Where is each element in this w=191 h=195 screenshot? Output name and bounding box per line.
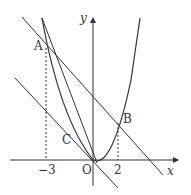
parabola: [42, 18, 140, 161]
x-axis-label: x: [167, 165, 174, 177]
point-a-label: A: [34, 40, 43, 52]
origin-label: O: [82, 164, 92, 176]
point-b-label: B: [123, 113, 132, 125]
tick-neg3: −3: [38, 164, 56, 176]
y-axis-label: y: [80, 12, 87, 24]
point-c-label: C: [62, 134, 71, 146]
diagram-graphics: [0, 0, 191, 195]
tick-2: 2: [114, 164, 122, 176]
diagram: A B C O −3 2 x y: [0, 0, 191, 195]
